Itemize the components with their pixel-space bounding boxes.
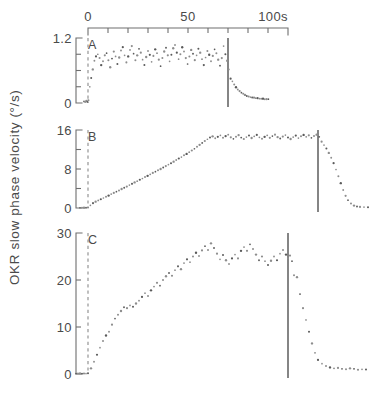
data-point — [267, 264, 269, 266]
data-point — [94, 200, 96, 202]
data-point — [165, 47, 167, 49]
data-point — [220, 135, 222, 137]
data-point — [208, 54, 210, 56]
data-point — [268, 98, 270, 100]
data-point — [110, 193, 112, 195]
data-point — [190, 49, 192, 51]
data-point — [204, 140, 206, 142]
y-axis-tick-label: 0 — [64, 201, 72, 216]
data-point — [139, 179, 141, 181]
data-point — [108, 331, 110, 333]
data-point — [234, 254, 236, 256]
data-point — [228, 68, 230, 70]
y-axis-tick-label: 30 — [57, 226, 72, 241]
data-point — [104, 54, 106, 56]
data-point — [181, 46, 183, 48]
data-point — [146, 175, 148, 177]
data-point — [214, 137, 216, 139]
data-point — [169, 60, 171, 62]
data-point — [102, 340, 104, 342]
data-point — [276, 259, 278, 261]
data-point — [156, 52, 158, 54]
data-point — [365, 369, 367, 371]
data-point — [305, 319, 307, 321]
data-point — [289, 138, 291, 140]
data-point — [150, 289, 152, 291]
data-point — [187, 63, 189, 65]
data-point — [270, 260, 272, 262]
data-point — [259, 98, 261, 100]
data-point — [171, 275, 173, 277]
data-point — [97, 53, 99, 55]
data-point — [87, 99, 89, 101]
data-point — [308, 331, 310, 333]
data-point — [165, 275, 167, 277]
data-point — [120, 188, 122, 190]
data-point — [188, 55, 190, 57]
panel-c-y-axis — [76, 233, 82, 374]
data-point — [262, 98, 264, 100]
data-point — [201, 142, 203, 144]
data-point — [113, 50, 115, 52]
data-point — [300, 135, 302, 137]
data-point — [138, 300, 140, 302]
data-point — [225, 259, 227, 261]
data-point — [273, 256, 275, 258]
data-point — [85, 373, 87, 375]
data-point — [105, 196, 107, 198]
data-point — [356, 206, 358, 208]
data-point — [214, 49, 216, 51]
data-point — [210, 60, 212, 62]
data-point — [143, 64, 145, 66]
data-point — [111, 324, 113, 326]
panel-c: 0102030C — [57, 226, 367, 382]
data-point — [145, 56, 147, 58]
data-point — [185, 153, 187, 155]
data-point — [142, 59, 144, 61]
data-point — [196, 146, 198, 148]
data-point — [279, 138, 281, 140]
data-point — [235, 86, 237, 88]
data-point — [240, 137, 242, 139]
data-point — [140, 52, 142, 54]
data-series-b — [79, 133, 369, 208]
data-point — [131, 45, 133, 47]
data-point — [85, 207, 87, 209]
data-point — [333, 367, 335, 369]
data-point — [335, 169, 337, 171]
time-axis-tick-label: 100s — [258, 9, 288, 24]
data-point — [224, 135, 226, 137]
data-point — [359, 206, 361, 208]
data-point — [144, 292, 146, 294]
data-point — [237, 257, 239, 259]
data-point — [132, 306, 134, 308]
data-point — [90, 367, 92, 369]
data-point — [194, 148, 196, 150]
data-point — [244, 94, 246, 96]
data-point — [81, 373, 83, 375]
data-point — [79, 372, 81, 374]
data-point — [107, 59, 109, 61]
data-point — [345, 368, 347, 370]
data-point — [131, 183, 133, 185]
data-series-a — [83, 44, 269, 103]
data-point — [92, 68, 94, 70]
data-point — [287, 137, 289, 139]
data-point — [126, 185, 128, 187]
data-point — [162, 167, 164, 169]
data-point — [178, 157, 180, 159]
panel-letter-c: C — [88, 233, 98, 247]
data-point — [292, 136, 294, 138]
data-point — [311, 342, 313, 344]
data-point — [117, 314, 119, 316]
data-point — [201, 249, 203, 251]
data-point — [285, 134, 287, 136]
data-point — [363, 206, 365, 208]
data-point — [328, 152, 330, 154]
data-point — [134, 59, 136, 61]
data-point — [191, 149, 193, 151]
data-point — [357, 369, 359, 371]
data-point — [255, 97, 257, 99]
data-point — [147, 295, 149, 297]
data-point — [250, 96, 252, 98]
